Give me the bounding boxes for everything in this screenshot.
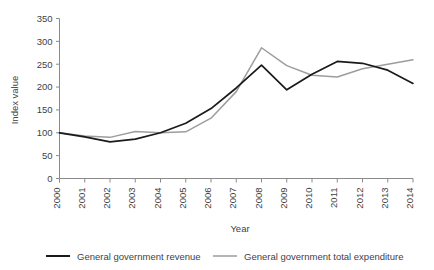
y-axis-tick-label: 250 [37, 59, 53, 70]
chart-legend: General government revenueGeneral govern… [46, 251, 404, 262]
y-axis-tick-label: 0 [47, 173, 52, 184]
series-line-general-government-total-expenditure [60, 48, 414, 138]
x-axis-tick-label: 2005 [177, 188, 188, 209]
x-axis-tick-labels: 2000200120022003200420052006200720082009… [51, 188, 416, 209]
y-axis-tick-label: 350 [37, 13, 53, 24]
y-axis-tick-marks [56, 19, 60, 179]
chart-canvas: 050100150200250300350 200020012002200320… [0, 0, 434, 270]
y-axis-tick-label: 150 [37, 104, 53, 115]
x-axis-tick-label: 2008 [253, 188, 264, 209]
x-axis-title: Year [230, 223, 249, 234]
x-axis-tick-label: 2002 [101, 188, 112, 209]
x-axis-tick-label: 2012 [354, 188, 365, 209]
x-axis-tick-label: 2009 [278, 188, 289, 209]
x-axis-tick-label: 2000 [51, 188, 62, 209]
x-axis-tick-label: 2014 [404, 188, 415, 209]
y-axis-tick-label: 100 [37, 127, 53, 138]
y-axis-tick-label: 200 [37, 81, 53, 92]
x-axis-tick-label: 2013 [379, 188, 390, 209]
line-chart: 050100150200250300350 200020012002200320… [0, 0, 434, 270]
x-axis-tick-label: 2001 [76, 188, 87, 209]
x-axis-tick-label: 2007 [227, 188, 238, 209]
x-axis-tick-label: 2011 [328, 188, 339, 208]
y-axis-tick-label: 50 [42, 150, 53, 161]
y-axis-tick-labels: 050100150200250300350 [37, 13, 53, 184]
legend-label: General government total expenditure [244, 251, 404, 262]
y-axis-tick-label: 300 [37, 36, 53, 47]
series-line-general-government-revenue [60, 61, 414, 141]
x-axis-tick-label: 2010 [303, 188, 314, 209]
x-axis-tick-label: 2004 [152, 188, 163, 209]
x-axis-tick-label: 2003 [126, 188, 137, 209]
x-axis-tick-marks [60, 179, 414, 183]
y-axis-title: Index value [9, 76, 20, 125]
legend-label: General government revenue [77, 251, 201, 262]
x-axis-tick-label: 2006 [202, 188, 213, 209]
